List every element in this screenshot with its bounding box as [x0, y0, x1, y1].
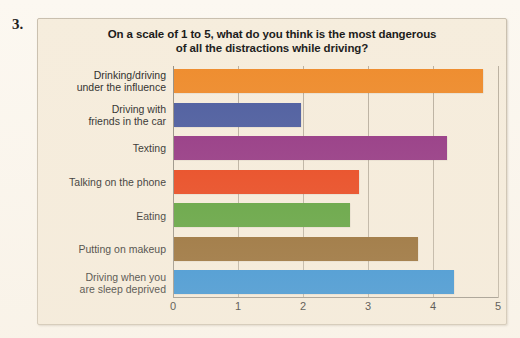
category-label-line: Texting [133, 142, 166, 154]
bar-6 [174, 270, 454, 294]
category-label-line: Driving with [88, 103, 166, 115]
x-tick-label-1: 1 [235, 300, 241, 312]
category-label-line: friends in the car [88, 115, 166, 127]
page-canvas: 3. On a scale of 1 to 5, what do you thi… [0, 0, 520, 338]
category-label-line: Putting on makeup [78, 243, 166, 255]
gridline-5 [498, 66, 499, 298]
chart-panel: On a scale of 1 to 5, what do you think … [37, 18, 507, 325]
question-number: 3. [12, 16, 23, 33]
x-tick-label-4: 4 [430, 300, 436, 312]
category-axis-labels: Drinking/driving under the influence Dri… [38, 66, 171, 298]
bar-row [174, 203, 498, 227]
category-label-line: Driving when you [80, 271, 166, 283]
x-tick-label-0: 0 [170, 300, 176, 312]
category-label-eating: Eating [38, 204, 171, 228]
bar-row [174, 136, 498, 160]
chart-title-line-1: On a scale of 1 to 5, what do you think … [48, 27, 496, 41]
category-label-line: Talking on the phone [69, 176, 166, 188]
chart-title-line-2: of all the distractions while driving? [48, 41, 496, 55]
bar-row [174, 237, 498, 261]
x-axis-tick-labels: 012345 [173, 300, 498, 318]
category-label-talking-on-the-phone: Talking on the phone [38, 170, 171, 194]
category-label-sleep-deprived: Driving when you are sleep deprived [38, 271, 171, 295]
x-axis-line [173, 297, 498, 298]
bar-3 [174, 170, 359, 194]
bar-series [174, 66, 498, 297]
x-tick-label-5: 5 [495, 300, 501, 312]
x-tick-label-2: 2 [300, 300, 306, 312]
bar-0 [174, 69, 483, 93]
bar-5 [174, 237, 418, 261]
category-label-line: are sleep deprived [80, 283, 166, 295]
chart-title: On a scale of 1 to 5, what do you think … [48, 27, 496, 55]
category-label-driving-with-friends: Driving with friends in the car [38, 103, 171, 127]
bar-row [174, 270, 498, 294]
bar-2 [174, 136, 447, 160]
plot-area [173, 66, 498, 298]
category-label-putting-on-makeup: Putting on makeup [38, 237, 171, 261]
category-label-drinking-driving: Drinking/driving under the influence [38, 69, 171, 93]
bar-row [174, 170, 498, 194]
category-label-texting: Texting [38, 136, 171, 160]
category-label-line: Drinking/driving [77, 69, 166, 81]
bar-row [174, 103, 498, 127]
x-tick-label-3: 3 [365, 300, 371, 312]
bar-4 [174, 203, 350, 227]
category-label-line: Eating [136, 210, 166, 222]
bar-1 [174, 103, 301, 127]
bar-row [174, 69, 498, 93]
category-label-line: under the influence [77, 81, 166, 93]
